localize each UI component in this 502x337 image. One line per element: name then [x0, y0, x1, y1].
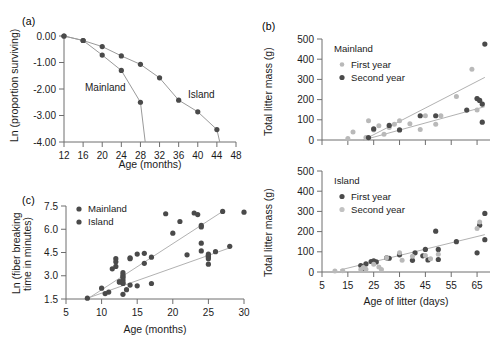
- data-point: [363, 267, 368, 272]
- ytick-label: 0: [308, 135, 314, 146]
- panel-c-plot: (c) Ln (fiber breaking time in minutes) …: [0, 178, 252, 337]
- data-point: [428, 256, 433, 261]
- data-point: [113, 264, 118, 269]
- panel-b-top-legend: Mainland First year Second year: [334, 43, 406, 83]
- panel-a-ytick-4: -4.00: [33, 137, 56, 148]
- data-point: [423, 113, 428, 118]
- panel-b-bottom-legend-item-0: First year: [351, 191, 392, 202]
- data-point: [376, 123, 381, 128]
- xtick-label: 15: [132, 307, 144, 318]
- data-point: [477, 219, 482, 224]
- data-point: [371, 126, 376, 131]
- data-point: [170, 231, 175, 236]
- data-point: [418, 127, 423, 132]
- panel-b-top-legend-title: Mainland: [334, 43, 373, 54]
- panel-b-bottom-xlabel: Age of litter (days): [363, 295, 448, 307]
- data-point: [436, 247, 441, 252]
- ytick-label: 4.5: [44, 247, 58, 258]
- data-point: [195, 212, 200, 217]
- legend-marker-first-year: [339, 194, 344, 199]
- data-point: [475, 226, 480, 231]
- xtick-label: 5: [63, 307, 69, 318]
- ytick-label: 400: [297, 186, 314, 197]
- data-point: [480, 120, 485, 125]
- xtick-label: 55: [446, 280, 458, 291]
- data-point: [241, 210, 246, 215]
- legend-marker-second-year: [339, 207, 344, 212]
- data-point: [469, 67, 474, 72]
- panel-b-bottom-ylabel: Total litter mass (g): [262, 188, 274, 277]
- panel-c-tag: (c): [22, 194, 35, 206]
- data-point: [176, 98, 181, 103]
- data-point: [127, 282, 132, 287]
- panel-a-xtick-20: 20: [97, 150, 109, 161]
- data-point: [113, 259, 118, 264]
- data-point: [163, 211, 168, 216]
- panel-a: (a) Ln (proportion surviving) 0.00 -1.00…: [0, 0, 250, 172]
- data-point: [397, 127, 402, 132]
- data-point: [407, 121, 412, 126]
- panel-c-xlabel: Age (months): [123, 323, 186, 335]
- legend-marker-first-year: [340, 62, 345, 67]
- data-point: [120, 280, 125, 285]
- data-point: [177, 219, 182, 224]
- data-point: [142, 251, 147, 256]
- data-point: [366, 118, 371, 123]
- panel-a-xtick-16: 16: [78, 150, 90, 161]
- data-point: [480, 101, 485, 106]
- data-point: [475, 108, 480, 113]
- data-point: [410, 254, 415, 259]
- data-point: [206, 256, 211, 261]
- panel-c-x-ticks: 51015202530: [63, 299, 250, 318]
- panel-c: (c) Ln (fiber breaking time in minutes) …: [0, 178, 252, 337]
- panel-b-top-plot: (b) Total litter mass (g) 01002003004005…: [250, 8, 502, 160]
- data-point: [332, 268, 337, 273]
- data-point: [119, 68, 124, 73]
- panel-a-y-ticks: 0.00 -1.00 -2.00 -3.00 -4.00: [33, 31, 64, 148]
- ytick-label: 500: [297, 166, 314, 177]
- panel-b-top-legend-item-0: First year: [351, 59, 392, 70]
- panel-a-xtick-48: 48: [230, 150, 242, 161]
- panel-b-tag: (b): [262, 20, 275, 32]
- ytick-label: 400: [297, 54, 314, 65]
- panel-a-ytick-1: -1.00: [33, 57, 56, 68]
- data-point: [157, 75, 162, 80]
- data-point: [366, 135, 371, 140]
- data-point: [120, 292, 125, 297]
- panel-b-bottom-x-ticks: 5152535455565: [319, 272, 483, 291]
- data-point: [436, 257, 441, 262]
- panel-b-bottom-legend: Island First year Second year: [334, 175, 406, 215]
- data-point: [135, 251, 140, 256]
- panel-c-legend-item-0: Mainland: [88, 203, 127, 214]
- panel-b-bottom: Total litter mass (g) 0100200300400500 5…: [250, 155, 502, 337]
- data-point: [474, 250, 479, 255]
- data-point: [351, 129, 356, 134]
- data-point: [100, 52, 105, 57]
- data-point: [397, 118, 402, 123]
- data-point: [124, 287, 129, 292]
- panel-a-plot: (a) Ln (proportion surviving) 0.00 -1.00…: [0, 0, 250, 172]
- data-point: [454, 239, 459, 244]
- data-point: [106, 289, 111, 294]
- data-point: [397, 250, 402, 255]
- data-point: [423, 253, 428, 258]
- panel-a-tag: (a): [22, 15, 35, 27]
- data-point: [120, 275, 125, 280]
- panel-c-y-ticks: 1.53.04.56.07.5: [44, 201, 66, 305]
- data-point: [387, 123, 392, 128]
- data-point: [438, 113, 443, 118]
- data-point: [138, 62, 143, 67]
- ytick-label: 300: [297, 206, 314, 217]
- panel-a-ylabel: Ln (proportion surviving): [8, 29, 20, 142]
- data-point: [433, 229, 438, 234]
- panel-a-xtick-44: 44: [211, 150, 223, 161]
- ytick-label: 300: [297, 74, 314, 85]
- data-point: [340, 268, 345, 273]
- ytick-label: 3.0: [44, 270, 58, 281]
- data-point: [149, 281, 154, 286]
- data-point: [199, 241, 204, 246]
- xtick-label: 45: [420, 280, 432, 291]
- data-point: [384, 255, 389, 260]
- data-point: [345, 136, 350, 141]
- xtick-label: 5: [319, 280, 325, 291]
